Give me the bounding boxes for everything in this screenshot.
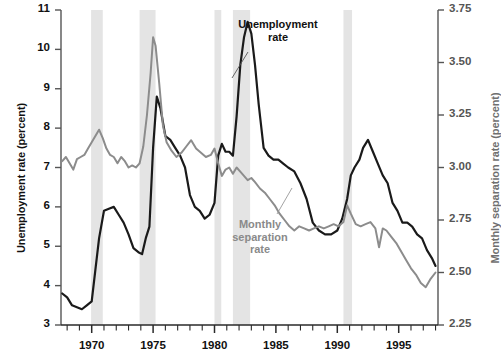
x-tick-label: 1985: [246, 339, 306, 351]
y-tick-label-left: 6: [0, 199, 50, 211]
y-tick-label-right: 2.25: [449, 317, 471, 329]
x-tick-label: 1970: [62, 339, 122, 351]
series-label-unemployment-line1: Unemployment: [238, 18, 317, 30]
x-tick-label: 1980: [185, 339, 245, 351]
series-label-separation: Monthly separation rate: [212, 218, 308, 256]
y-tick-label-right: 3.00: [449, 160, 471, 172]
y-tick-label-left: 4: [0, 278, 50, 290]
y-tick-label-right: 3.25: [449, 107, 471, 119]
y-tick-label-right: 3.75: [449, 2, 471, 14]
y-tick-label-left: 8: [0, 120, 50, 132]
y-tick-label-left: 11: [0, 2, 50, 14]
y-tick-label-left: 10: [0, 41, 50, 53]
y-tick-label-left: 7: [0, 160, 50, 172]
recession-band: [91, 10, 103, 325]
y-tick-label-right: 2.75: [449, 212, 471, 224]
y-tick-label-left: 9: [0, 81, 50, 93]
x-tick-label: 1995: [369, 339, 429, 351]
y-tick-label-right: 2.50: [449, 265, 471, 277]
series-label-unemployment-line2: rate: [268, 31, 288, 43]
y-tick-label-left: 3: [0, 317, 50, 329]
series-label-separation-line2: separation: [232, 231, 288, 243]
x-tick-label: 1990: [307, 339, 367, 351]
series-label-separation-line3: rate: [250, 243, 270, 255]
recession-band: [343, 10, 352, 325]
series-label-separation-line1: Monthly: [239, 218, 281, 230]
x-tick-label: 1975: [123, 339, 183, 351]
leader-line-separation: [277, 188, 292, 214]
y-tick-label-left: 5: [0, 238, 50, 250]
series-label-unemployment: Unemployment rate: [228, 18, 328, 43]
y-tick-label-right: 3.50: [449, 55, 471, 67]
